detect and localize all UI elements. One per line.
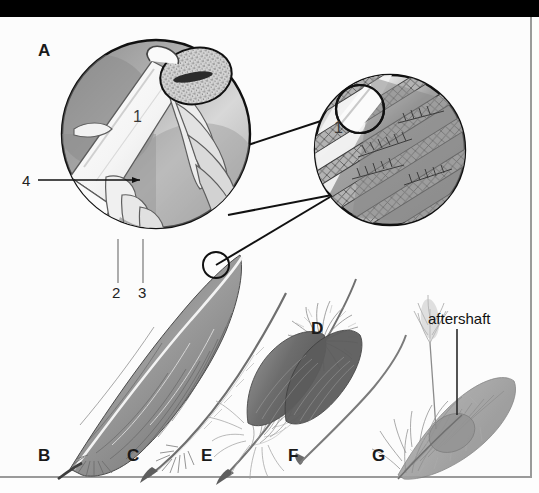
- leader-lines-2-3: [118, 239, 143, 283]
- panel-label-g: G: [372, 447, 385, 464]
- panel-label-d: D: [311, 320, 323, 337]
- panel-label-a: A: [38, 42, 50, 59]
- feather-b-flight: [58, 252, 242, 479]
- panel-label-c: C: [127, 447, 139, 464]
- callout-3: 3: [138, 285, 146, 300]
- panel-label-b: B: [38, 447, 50, 464]
- panel-a-magnified-sphere: [37, 40, 272, 283]
- top-black-bar: [0, 0, 539, 17]
- magnified-barbule-detail: [266, 19, 534, 271]
- callout-1-right: 1: [334, 120, 343, 136]
- panel-label-f: F: [288, 447, 298, 464]
- callout-2: 2: [112, 285, 120, 300]
- callout-1-left: 1: [133, 109, 142, 125]
- panel-label-e: E: [201, 447, 212, 464]
- illustration-artboard: A B C D E F G 1 1 2 3 4 aftershaft: [0, 17, 539, 493]
- callout-4: 4: [22, 173, 30, 188]
- illustration-svg: [0, 17, 539, 493]
- feather-anatomy-figure: A B C D E F G 1 1 2 3 4 aftershaft: [0, 0, 539, 493]
- annotation-aftershaft: aftershaft: [428, 311, 491, 326]
